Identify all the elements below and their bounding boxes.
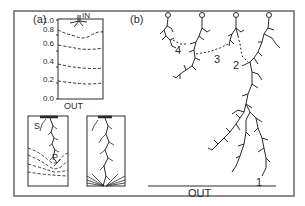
branch-label-3: 3 [214,54,220,65]
electrode-icon [200,13,205,18]
branch-label-2: 2 [233,60,239,71]
label-p: P [52,153,58,162]
y-tick: 0.0 [32,95,54,103]
potential-contours [58,30,103,84]
y-tick: 0.8 [32,26,54,34]
y-tick: 0.6 [32,40,54,48]
panel-b-label: (b) [130,14,143,25]
inlet-label: IN [82,12,90,20]
y-tick: 0.2 [32,76,54,84]
branch-label-4: 4 [175,45,181,56]
branch-label-1: 1 [256,177,262,188]
figure-frame [14,11,294,196]
bottom-right-inset [87,116,125,186]
panel-b-outlet-label: OUT [188,188,211,199]
top-inset [56,15,103,99]
panel-b-tree [148,13,280,187]
label-s: S [34,122,40,131]
electrode-icon [267,13,272,18]
y-tick: 0.4 [32,58,54,66]
electrode-icon [166,13,171,18]
electrode-icon [234,13,239,18]
y-tick: 1.0 [32,17,54,25]
top-inset-outlet-label: OUT [64,102,83,111]
